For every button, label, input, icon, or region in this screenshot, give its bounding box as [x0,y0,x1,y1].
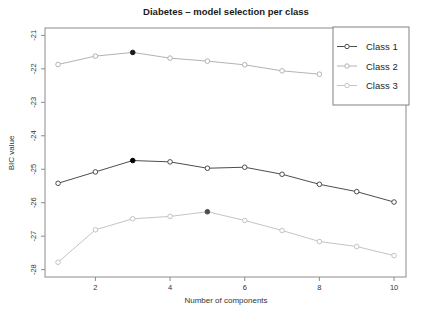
series-class-2 [56,50,322,76]
x-tick-label: 4 [168,283,172,292]
data-point-marker [242,63,247,68]
data-point-marker [56,181,61,186]
data-point-marker [354,244,359,249]
data-point-marker [205,59,210,64]
legend-label: Class 2 [366,61,398,72]
y-tick-label: -22 [29,63,38,74]
legend-label: Class 3 [366,80,398,91]
y-tick-label: -27 [29,231,38,242]
data-point-marker [317,182,322,187]
y-axis-title: BIC value [7,135,16,170]
best-model-marker [130,158,135,163]
data-point-marker [168,214,173,219]
y-tick-label: -28 [29,264,38,275]
data-point-marker [280,228,285,233]
y-tick-label: -24 [29,130,38,141]
x-tick-label: 2 [93,283,97,292]
y-tick-label: -26 [29,197,38,208]
series-class-3 [56,209,397,264]
y-tick-label: -23 [29,97,38,108]
y-tick-label: -25 [29,164,38,175]
data-point-marker [93,54,98,59]
data-point-marker [317,72,322,77]
data-point-marker [93,170,98,175]
x-axis-title: Number of components [184,296,267,305]
data-point-marker [56,260,61,265]
data-point-marker [280,69,285,74]
data-point-marker [242,165,247,170]
data-point-marker [354,189,359,194]
data-point-marker [392,253,397,258]
series-line [58,161,394,203]
x-tick-label: 6 [243,283,247,292]
data-point-marker [56,62,61,67]
plot-canvas: Diabetes – model selection per class 246… [0,0,425,321]
data-point-marker [392,200,397,205]
legend-marker [345,44,349,48]
best-model-marker [205,209,210,214]
chart-title: Diabetes – model selection per class [143,6,309,17]
data-point-marker [93,228,98,233]
data-point-marker [317,239,322,244]
legend-marker [345,83,349,87]
data-point-marker [130,216,135,221]
data-point-marker [168,56,173,61]
series-line [58,212,394,263]
data-point-marker [168,160,173,165]
chart-figure: Diabetes – model selection per class 246… [0,0,425,321]
best-model-marker [130,50,135,55]
series-class-1 [56,158,397,204]
data-point-marker [242,218,247,223]
y-tick-label: -21 [29,30,38,41]
data-point-marker [205,166,210,171]
legend-label: Class 1 [366,41,398,52]
x-tick-label: 8 [317,283,321,292]
legend-layer: Class 1Class 2Class 3 [333,27,409,105]
x-tick-label: 10 [390,283,398,292]
legend-marker [345,64,349,68]
data-point-marker [280,172,285,177]
